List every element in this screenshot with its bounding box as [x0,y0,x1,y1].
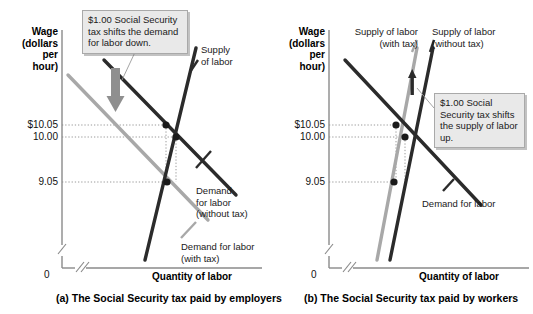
label-swo-line-2: (without tax) [432,38,495,50]
y-tick-10-05-a: $10.05 [8,119,58,130]
y-axis-title-line-4: hour) [271,61,325,73]
point-10-00 [172,133,179,140]
y-tick-9-05-a: 9.05 [8,176,58,187]
label-dwt-line-2: (with tax) [181,253,254,265]
label-dwo-line-2: for labor [196,197,248,209]
label-supply-a: Supply of labor [201,44,233,67]
curve-supply [145,48,196,260]
label-dwo-line-1: Demand [196,185,248,197]
leader-demand-b [443,179,454,191]
label-demand-b: Demand for labor [422,198,495,210]
label-swo-line-1: Supply of labor [432,26,495,38]
point-10-05 [162,121,169,128]
curve-demand-without-tax [104,60,236,195]
x-axis-title-b: Quantity of labor [419,271,499,283]
y-axis-title-b: Wage (dollars per hour) [271,26,325,72]
panel-a: Wage (dollars per hour) $10.05 10.00 9.0… [0,0,266,314]
label-swt-line-2: (with tax) [322,38,418,50]
y-axis-title-line-4: hour) [4,61,58,73]
x-axis-title-a: Quantity of labor [152,271,232,283]
y-axis-title-line-2: (dollars [271,38,325,50]
label-supply-a-line-2: of labor [201,56,233,68]
y-axis-title-a: Wage (dollars per hour) [4,26,58,72]
y-tick-10-00-b: 10.00 [275,131,325,142]
point-10-05 [392,121,399,128]
y-axis-title-line-2: (dollars [4,38,58,50]
point-9-05 [163,178,170,185]
label-demand-with-tax-a: Demand for labor (with tax) [181,241,254,264]
origin-label-a: 0 [44,269,50,280]
caption-a: (a) The Social Security tax paid by empl… [56,292,282,304]
label-demand-b-line-1: Demand for labor [422,198,495,210]
label-swt-line-1: Supply of labor [322,26,418,38]
figure-root: Wage (dollars per hour) $10.05 10.00 9.0… [0,0,533,314]
label-supply-a-line-1: Supply [201,44,233,56]
panel-b: Wage (dollars per hour) $10.05 10.00 9.0… [267,0,533,314]
origin-label-b: 0 [311,269,317,280]
callout-b: $1.00 Social Security tax shifts the sup… [434,93,525,148]
y-axis-title-line-3: per [4,49,58,61]
down-arrow-icon [107,68,125,112]
y-tick-10-00-a: 10.00 [8,131,58,142]
label-dwo-line-3: (without tax) [196,208,248,220]
y-axis-title-line-1: Wage [271,26,325,38]
y-axis-title-line-1: Wage [4,26,58,38]
label-dwt-line-1: Demand for labor [181,241,254,253]
leader-demand-with-tax [181,222,196,238]
label-supply-without-tax-b: Supply of labor (without tax) [432,26,495,49]
y-tick-9-05-b: 9.05 [275,176,325,187]
callout-a: $1.00 Social Security tax shifts the dem… [82,10,188,54]
y-tick-10-05-b: $10.05 [275,119,325,130]
point-10-00 [401,133,408,140]
label-demand-without-tax-a: Demand for labor (without tax) [196,185,248,220]
y-axis-title-line-3: per [271,49,325,61]
point-9-05 [390,178,397,185]
caption-b: (b) The Social Security tax paid by work… [304,292,518,304]
guide-lines [62,125,176,182]
label-supply-with-tax-b: Supply of labor (with tax) [322,26,418,49]
